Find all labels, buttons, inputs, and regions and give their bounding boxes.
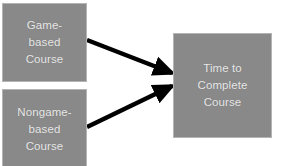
node-game-based-course-label: Game- based Course	[26, 17, 64, 68]
node-nongame-based-course-label: Nongame- based Course	[17, 104, 72, 155]
edge-game-to-time	[87, 40, 172, 73]
node-game-based-course: Game- based Course	[2, 3, 87, 82]
node-time-to-complete-course: Time to Complete Course	[173, 33, 272, 138]
diagram-canvas: Game- based Course Nongame- based Course…	[0, 0, 284, 166]
node-nongame-based-course: Nongame- based Course	[2, 89, 87, 166]
edge-nongame-to-time	[87, 86, 172, 127]
node-time-to-complete-course-label: Time to Complete Course	[197, 60, 247, 111]
